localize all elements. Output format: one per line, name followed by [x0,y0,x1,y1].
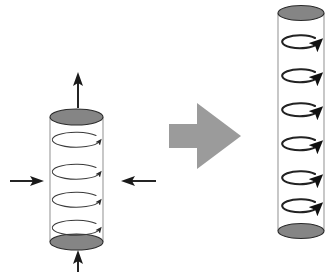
right-radial-load-arrow [121,176,156,186]
result-cylinder [278,6,324,239]
result-cylinder-body [278,13,324,239]
top-axial-load-arrow [73,72,83,108]
diagram-svg [0,0,328,272]
figure-canvas: Cylinder rotation transformation diagram [0,0,328,272]
source-cylinder [50,109,103,250]
result-cylinder-top-cap [278,6,324,21]
bottom-axial-load-arrow [73,250,83,272]
result-cylinder-bottom-cap [278,224,324,239]
source-cylinder-top-cap [50,109,103,125]
source-cylinder-bottom-cap [50,234,103,250]
transform-block-arrow [169,103,241,169]
source-cylinder-body [50,117,103,250]
left-radial-load-arrow [10,176,44,186]
